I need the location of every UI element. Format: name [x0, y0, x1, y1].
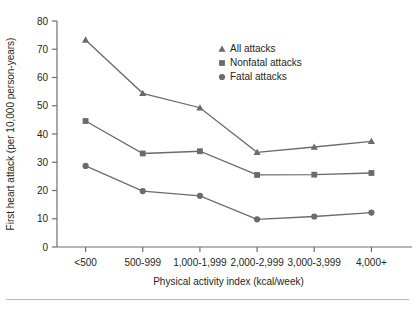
x-tick-label: 2,000-2,999 [230, 257, 284, 268]
data-point-square [83, 118, 89, 124]
data-point-square [140, 151, 146, 157]
data-point-circle [197, 193, 203, 199]
x-tick-label: <500 [74, 257, 97, 268]
legend-label-triangle: All attacks [230, 43, 276, 54]
x-tick-label: 1,000-1,999 [173, 257, 227, 268]
data-point-circle [140, 188, 146, 194]
footer-divider [6, 299, 409, 300]
legend-marker-triangle [218, 45, 225, 51]
y-tick-label: 60 [37, 72, 49, 83]
x-axis-title: Physical activity index (kcal/week) [153, 276, 304, 287]
series-line-triangle [86, 40, 372, 152]
legend-label-circle: Fatal attacks [230, 71, 287, 82]
data-point-circle [254, 216, 260, 222]
y-axis-title: First heart attack (per 10,000 person-ye… [5, 38, 16, 231]
y-tick-label: 70 [37, 44, 49, 55]
x-tick-label: 500-999 [124, 257, 161, 268]
data-point-square [197, 148, 203, 154]
y-tick-label: 80 [37, 16, 49, 27]
y-tick-label: 40 [37, 129, 49, 140]
legend-label-square: Nonfatal attacks [230, 57, 302, 68]
series-line-square [86, 121, 372, 175]
data-point-circle [311, 213, 317, 219]
data-point-square [254, 172, 260, 178]
data-point-circle [368, 209, 374, 215]
legend-marker-square [219, 60, 225, 66]
data-point-triangle [368, 138, 375, 144]
data-point-square [369, 170, 375, 176]
x-tick-label: 3,000-3,999 [288, 257, 342, 268]
line-chart: 01020304050607080<500500-9991,000-1,9992… [0, 0, 415, 310]
data-point-triangle [82, 36, 89, 42]
y-tick-label: 30 [37, 157, 49, 168]
chart-figure: 01020304050607080<500500-9991,000-1,9992… [0, 0, 415, 310]
y-tick-label: 50 [37, 100, 49, 111]
y-tick-label: 10 [37, 213, 49, 224]
data-point-square [311, 172, 317, 178]
y-tick-label: 20 [37, 185, 49, 196]
data-point-circle [82, 163, 88, 169]
y-tick-label: 0 [42, 242, 48, 253]
x-tick-label: 4,000+ [356, 257, 387, 268]
legend-marker-circle [219, 74, 225, 80]
